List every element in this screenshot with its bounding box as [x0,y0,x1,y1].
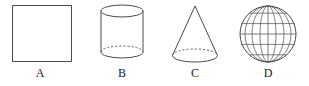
cylinder-icon [92,0,152,70]
shape-label-d: D [248,66,288,80]
shape-label-a: A [20,66,60,80]
shape-label-c: C [175,66,215,80]
sphere-icon [236,0,300,66]
geometry-figure: A B C D [0,0,309,86]
square-icon [0,0,86,66]
shape-label-b: B [102,66,142,80]
cone-icon [165,0,225,70]
